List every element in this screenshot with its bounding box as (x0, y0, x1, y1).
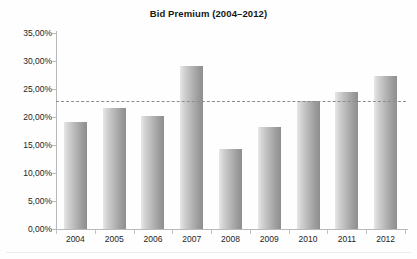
bottom-divider (6, 252, 411, 253)
bar-2005[interactable] (103, 108, 126, 229)
x-axis-tick-label-2005: 2005 (105, 234, 124, 244)
bar-2006[interactable] (141, 116, 164, 229)
bar-2010[interactable] (297, 101, 320, 229)
bar-2012[interactable] (374, 76, 397, 229)
x-axis-tick-mark (134, 230, 135, 234)
y-axis-tick-label: 5,00% (6, 196, 52, 206)
x-axis-tick-mark (250, 230, 251, 234)
x-axis-tick-label-2007: 2007 (182, 234, 201, 244)
bar-2007[interactable] (180, 66, 203, 229)
y-axis-tick-label: 30,00% (6, 56, 52, 66)
x-axis-tick-label-2012: 2012 (376, 234, 395, 244)
x-axis-tick-mark (95, 230, 96, 234)
bar-2011[interactable] (335, 92, 358, 229)
x-axis-tick-mark (172, 230, 173, 234)
x-axis-tick-mark (211, 230, 212, 234)
y-axis-tick-labels: 0,00%5,00%10,00%15,00%20,00%25,00%30,00%… (0, 0, 52, 259)
x-axis-tick-label-2004: 2004 (66, 234, 85, 244)
plot-area (56, 33, 405, 229)
y-axis-tick-label: 25,00% (6, 84, 52, 94)
bar-2008[interactable] (219, 149, 242, 229)
bar-chart: Bid Premium (2004–2012) 0,00%5,00%10,00%… (0, 0, 417, 259)
y-axis-tick-label: 15,00% (6, 140, 52, 150)
y-axis-tick-label: 20,00% (6, 112, 52, 122)
y-axis-tick-label: 35,00% (6, 28, 52, 38)
bar-2009[interactable] (258, 127, 281, 229)
x-axis-tick-mark (366, 230, 367, 234)
y-axis-tick-label: 0,00% (6, 224, 52, 234)
x-axis-tick-label-2010: 2010 (299, 234, 318, 244)
chart-title: Bid Premium (2004–2012) (0, 8, 417, 19)
y-axis-tick-label: 10,00% (6, 168, 52, 178)
bar-2004[interactable] (64, 122, 87, 229)
x-axis-tick-mark (327, 230, 328, 234)
x-axis-tick-mark (289, 230, 290, 234)
x-axis-line (56, 229, 408, 230)
x-axis-tick-label-2008: 2008 (221, 234, 240, 244)
x-axis-tick-mark (405, 230, 406, 234)
x-axis-tick-label-2006: 2006 (143, 234, 162, 244)
x-axis-tick-mark (56, 230, 57, 234)
average-reference-line (56, 101, 406, 102)
x-axis-tick-label-2011: 2011 (338, 234, 356, 244)
x-axis-tick-label-2009: 2009 (260, 234, 279, 244)
